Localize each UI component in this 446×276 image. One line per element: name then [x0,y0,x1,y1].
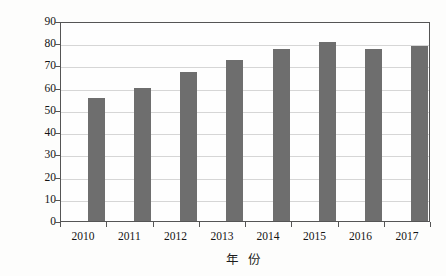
x-axis-tick-mark [291,222,292,227]
y-axis-tick-label: 80 [32,38,56,50]
y-axis-tick-label: 50 [32,105,56,117]
y-axis-tick-label: 90 [32,16,56,28]
y-axis-tick-label: 30 [32,150,56,162]
x-axis-tick-mark [106,222,107,227]
bar-2011 [134,88,151,221]
bar-2015 [319,42,336,221]
bar-2010 [88,98,105,221]
chart-figure: 栽培面积（万hm2） 0 10 20 30 40 50 60 70 80 90 [0,0,446,276]
y-axis-title-wrapper: 栽培面积（万hm2） [6,20,32,225]
y-axis-tick-label: 0 [32,216,56,228]
y-axis-tick-label: 40 [32,127,56,139]
x-axis-tick-mark [245,222,246,227]
x-axis-tick-mark [199,222,200,227]
x-axis-tick-mark [338,222,339,227]
y-axis-title: 栽培面积（万hm2） [8,0,34,46]
x-axis-tick-mark [384,222,385,227]
x-axis-title: 年 份 [60,249,430,268]
x-axis-tick-mark [430,222,431,227]
bar-2016 [365,49,382,221]
y-axis-tick-label: 20 [32,172,56,184]
y-axis-tick-label: 70 [32,61,56,73]
bar-2013 [226,60,243,221]
bar-2014 [273,49,290,221]
plot-area [60,22,430,222]
x-axis-tick-mark [153,222,154,227]
bar-2017 [411,46,428,221]
y-axis-tick-label: 10 [32,194,56,206]
x-axis-tick-label: 2017 [377,230,437,242]
bar-2012 [180,72,197,221]
gridline [61,45,429,46]
y-axis-tick-labels: 0 10 20 30 40 50 60 70 80 90 [32,22,56,222]
x-axis-tick-mark [60,222,61,227]
y-axis-tick-label: 60 [32,83,56,95]
